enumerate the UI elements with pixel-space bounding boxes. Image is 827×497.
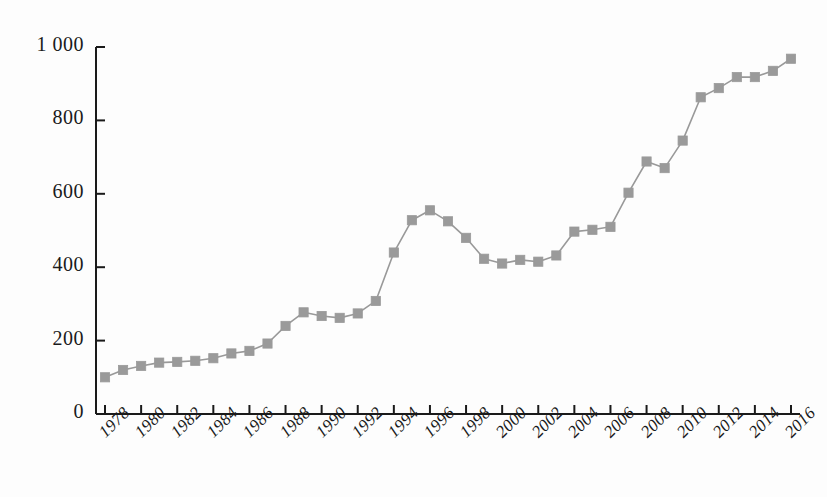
data-point-marker[interactable]	[461, 233, 470, 242]
data-point-marker[interactable]	[534, 257, 543, 266]
data-point-marker[interactable]	[389, 248, 398, 257]
data-point-marker[interactable]	[714, 84, 723, 93]
data-point-marker[interactable]	[732, 72, 741, 81]
data-point-marker[interactable]	[227, 349, 236, 358]
data-point-marker[interactable]	[678, 136, 687, 145]
data-point-marker[interactable]	[137, 361, 146, 370]
line-chart: 02004006008001 0001978198019821984198619…	[0, 0, 827, 497]
data-point-marker[interactable]	[191, 356, 200, 365]
data-point-marker[interactable]	[263, 339, 272, 348]
data-point-marker[interactable]	[552, 251, 561, 260]
data-point-marker[interactable]	[606, 222, 615, 231]
data-point-marker[interactable]	[353, 309, 362, 318]
data-point-marker[interactable]	[155, 358, 164, 367]
data-point-marker[interactable]	[768, 66, 777, 75]
data-point-marker[interactable]	[443, 217, 452, 226]
y-axis-tick-label: 1 000	[37, 33, 85, 56]
data-point-marker[interactable]	[570, 227, 579, 236]
y-axis-tick-label: 800	[53, 106, 85, 129]
data-point-marker[interactable]	[425, 206, 434, 215]
data-point-marker[interactable]	[173, 357, 182, 366]
y-axis-tick-label: 0	[74, 400, 85, 423]
data-point-marker[interactable]	[786, 54, 795, 63]
data-point-marker[interactable]	[407, 216, 416, 225]
y-axis-tick-label: 600	[53, 180, 85, 203]
data-point-marker[interactable]	[642, 157, 651, 166]
data-point-marker[interactable]	[317, 311, 326, 320]
y-axis-tick-label: 200	[53, 327, 85, 350]
data-point-marker[interactable]	[335, 313, 344, 322]
data-point-marker[interactable]	[696, 93, 705, 102]
data-point-marker[interactable]	[209, 354, 218, 363]
data-point-marker[interactable]	[480, 254, 489, 263]
data-point-marker[interactable]	[371, 296, 380, 305]
data-point-marker[interactable]	[660, 164, 669, 173]
data-point-marker[interactable]	[498, 259, 507, 268]
data-point-marker[interactable]	[281, 321, 290, 330]
data-point-marker[interactable]	[588, 225, 597, 234]
data-point-marker[interactable]	[516, 255, 525, 264]
data-point-marker[interactable]	[245, 346, 254, 355]
data-point-marker[interactable]	[118, 365, 127, 374]
data-point-marker[interactable]	[100, 373, 109, 382]
data-point-marker[interactable]	[299, 308, 308, 317]
data-point-marker[interactable]	[750, 72, 759, 81]
y-axis-tick-label: 400	[53, 253, 85, 276]
data-point-marker[interactable]	[624, 188, 633, 197]
